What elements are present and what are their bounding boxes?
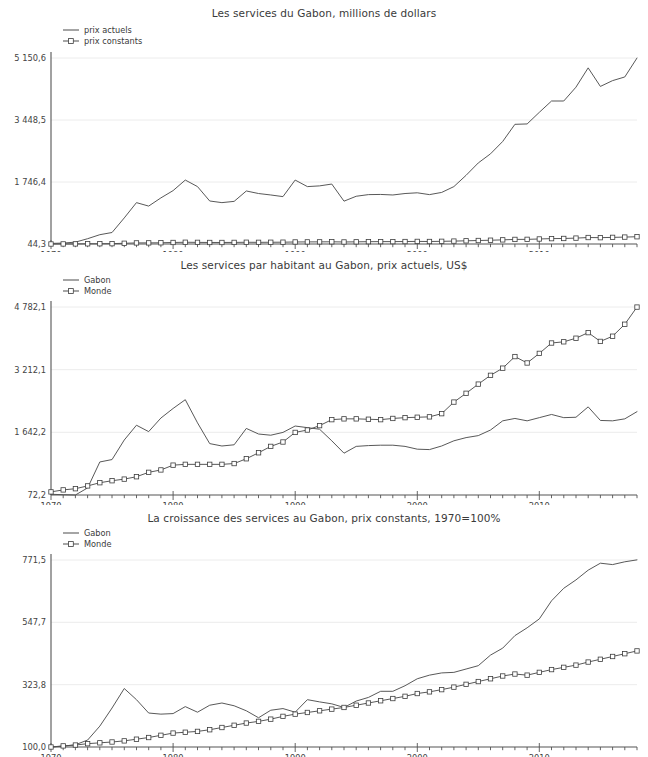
series-marker <box>134 737 138 741</box>
chart-svg-container-3: 100,0323,8547,7771,519701980199020002010… <box>0 525 648 757</box>
series-marker <box>415 239 419 243</box>
series-marker <box>501 366 505 370</box>
series-marker <box>427 239 431 243</box>
y-axis-tick-label: 771,5 <box>22 555 46 565</box>
series-marker <box>378 239 382 243</box>
series-line-prix-actuels <box>51 58 637 243</box>
series-marker <box>159 468 163 472</box>
y-axis-tick-label: 72,2 <box>28 490 46 500</box>
series-marker <box>134 241 138 245</box>
series-marker <box>317 709 321 713</box>
series-marker <box>195 462 199 466</box>
series-marker <box>391 416 395 420</box>
series-marker <box>525 361 529 365</box>
series-marker <box>110 479 114 483</box>
series-marker <box>586 330 590 334</box>
series-marker <box>256 451 260 455</box>
chart-plot-area-3: 100,0323,8547,7771,519701980199020002010… <box>0 525 648 757</box>
legend-marker <box>69 289 74 294</box>
legend-label: prix constants <box>84 36 142 46</box>
series-marker <box>159 733 163 737</box>
series-marker <box>256 719 260 723</box>
series-marker <box>378 417 382 421</box>
series-marker <box>623 235 627 239</box>
series-marker <box>146 241 150 245</box>
chart-title-3: La croissance des services au Gabon, pri… <box>0 505 648 525</box>
x-axis-tick-label: 1990 <box>285 753 306 757</box>
y-axis-tick-label: 44,3 <box>28 239 46 249</box>
series-marker <box>183 462 187 466</box>
series-line-monde <box>51 651 637 747</box>
y-axis-tick-label: 323,8 <box>22 680 46 690</box>
series-marker <box>232 240 236 244</box>
series-marker <box>171 731 175 735</box>
series-marker <box>269 240 273 244</box>
x-axis-tick-label: 2010 <box>529 753 550 757</box>
series-marker <box>342 417 346 421</box>
series-marker <box>330 417 334 421</box>
y-axis-tick-label: 1 642,2 <box>14 427 46 437</box>
y-axis-tick-label: 1 746,4 <box>14 177 46 187</box>
series-marker <box>85 242 89 246</box>
series-marker <box>513 672 517 676</box>
x-axis-tick-label: 1980 <box>163 753 184 757</box>
series-marker <box>549 667 553 671</box>
series-marker <box>171 463 175 467</box>
series-marker <box>244 240 248 244</box>
series-marker <box>195 729 199 733</box>
series-marker <box>366 239 370 243</box>
series-marker <box>452 685 456 689</box>
series-marker <box>598 235 602 239</box>
y-axis-tick-label: 3 448,5 <box>14 115 46 125</box>
chart-panel-1: Les services du Gabon, millions de dolla… <box>0 0 648 252</box>
series-marker <box>501 674 505 678</box>
series-marker <box>232 461 236 465</box>
series-marker <box>562 236 566 240</box>
series-marker <box>635 305 639 309</box>
series-marker <box>513 237 517 241</box>
series-marker <box>427 415 431 419</box>
series-marker <box>73 743 77 747</box>
series-marker <box>269 444 273 448</box>
y-axis-tick-label: 3 212,1 <box>14 365 46 375</box>
series-marker <box>208 728 212 732</box>
series-marker <box>525 673 529 677</box>
series-marker <box>537 351 541 355</box>
series-marker <box>574 236 578 240</box>
chart-panel-3: La croissance des services au Gabon, pri… <box>0 505 648 757</box>
series-marker <box>61 488 65 492</box>
series-marker <box>476 679 480 683</box>
series-marker <box>122 739 126 743</box>
series-marker <box>403 239 407 243</box>
series-marker <box>574 663 578 667</box>
chart-plot-area-1: 44,31 746,43 448,55 150,6197019801990200… <box>0 20 648 252</box>
series-marker <box>537 670 541 674</box>
series-marker <box>586 235 590 239</box>
series-marker <box>391 696 395 700</box>
series-marker <box>305 428 309 432</box>
series-marker <box>415 691 419 695</box>
series-marker <box>220 725 224 729</box>
x-axis-tick-label: 2000 <box>407 753 428 757</box>
series-marker <box>586 660 590 664</box>
chart-svg-container-1: 44,31 746,43 448,55 150,6197019801990200… <box>0 20 648 252</box>
series-marker <box>293 240 297 244</box>
series-marker <box>49 490 53 494</box>
series-marker <box>220 462 224 466</box>
series-marker <box>488 373 492 377</box>
series-marker <box>281 240 285 244</box>
chart-title-1: Les services du Gabon, millions de dolla… <box>0 0 648 20</box>
series-marker <box>330 707 334 711</box>
series-marker <box>49 242 53 246</box>
series-marker <box>610 334 614 338</box>
series-marker <box>549 236 553 240</box>
y-axis-tick-label: 100,0 <box>22 742 46 752</box>
series-marker <box>305 240 309 244</box>
y-axis-tick-label: 4 782,1 <box>14 302 46 312</box>
series-marker <box>330 240 334 244</box>
series-marker <box>610 654 614 658</box>
series-marker <box>598 657 602 661</box>
series-marker <box>98 242 102 246</box>
series-marker <box>134 475 138 479</box>
series-marker <box>452 400 456 404</box>
